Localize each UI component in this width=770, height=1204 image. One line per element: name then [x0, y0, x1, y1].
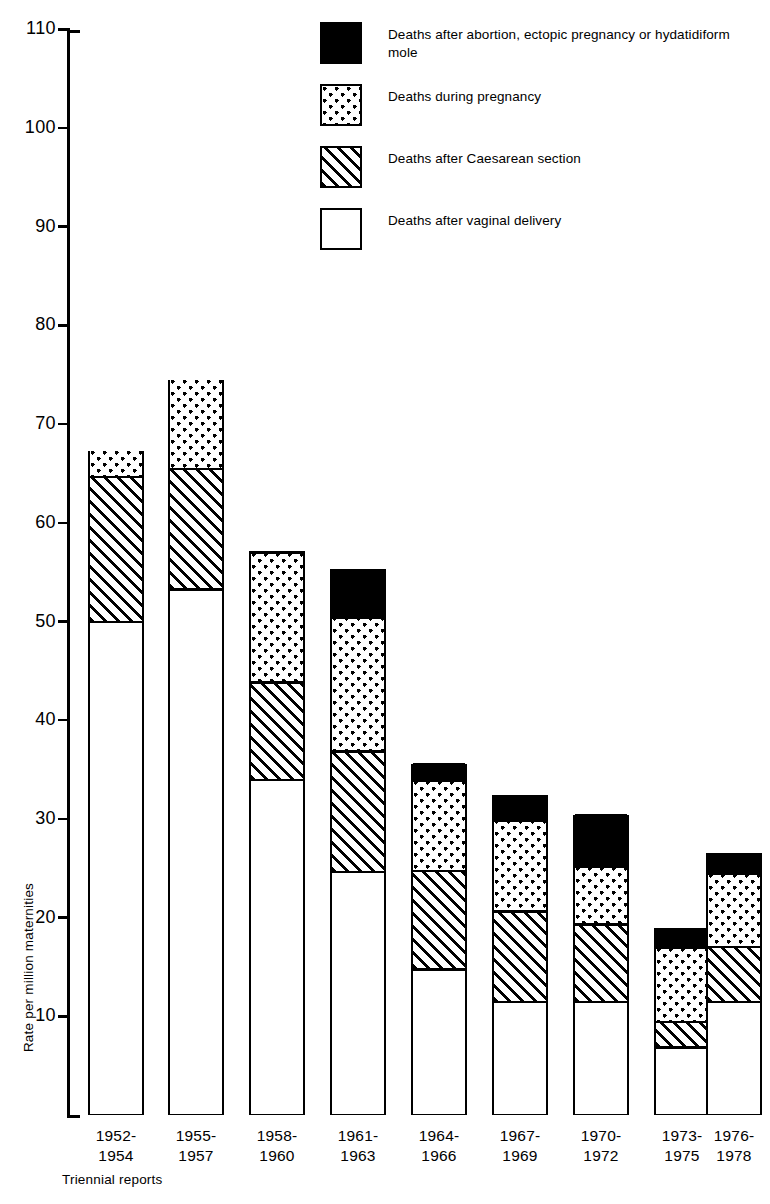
bar-segment-white: [413, 968, 465, 1114]
y-tick-30: [58, 818, 70, 821]
x-tick-label-1970-1972: 1970-1972: [562, 1126, 640, 1166]
bar-segment-hatch: [656, 1021, 708, 1047]
x-tick-label-1961-1963: 1961-1963: [319, 1126, 397, 1166]
bar-segment-divider: [708, 1001, 760, 1004]
bar-segment-dots: [708, 873, 760, 946]
bar-1976-1978[interactable]: [706, 853, 762, 1115]
bar-segment-hatch: [413, 870, 465, 969]
bar-segment-divider: [656, 1046, 708, 1049]
bar-segment-divider: [494, 1001, 546, 1004]
y-tick-label-60: 60: [10, 512, 56, 533]
bar-segment-divider: [656, 1021, 708, 1024]
x-tick-label-1967-1969: 1967-1969: [481, 1126, 559, 1166]
x-tick-label-1964-1966: 1964-1966: [400, 1126, 478, 1166]
y-tick-40: [58, 719, 70, 722]
x-tick-label-line-2: 1969: [481, 1146, 559, 1166]
bar-segment-divider: [170, 468, 222, 471]
y-tick-80: [58, 324, 70, 327]
bar-segment-divider: [251, 779, 303, 782]
bar-segment-white: [656, 1046, 708, 1114]
bar-segment-white: [251, 779, 303, 1115]
bar-segment-divider: [656, 947, 708, 950]
x-tick-label-line-2: 1957: [157, 1146, 235, 1166]
bar-segment-hatch: [708, 946, 760, 1001]
bar-segment-white: [494, 1001, 546, 1115]
bar-segment-divider: [575, 866, 627, 869]
bar-segment-divider: [708, 873, 760, 876]
bar-segment-dots: [413, 780, 465, 870]
y-tick-label-110: 110: [10, 18, 56, 39]
bar-segment-divider: [90, 621, 142, 624]
y-tick-label-40: 40: [10, 709, 56, 730]
x-tick-label-line-2: 1954: [77, 1146, 155, 1166]
y-tick-10: [58, 1015, 70, 1018]
x-tick-label-1976-1978: 1976-1978: [695, 1126, 770, 1166]
bar-1964-1966[interactable]: [411, 764, 467, 1115]
bar-1961-1963[interactable]: [330, 569, 386, 1115]
x-tick-label-line-1: 1976-: [695, 1126, 770, 1146]
y-tick-label-30: 30: [10, 808, 56, 829]
bar-segment-solid: [494, 795, 546, 820]
x-axis-title: Triennial reports: [62, 1172, 162, 1187]
bar-segment-divider: [413, 968, 465, 971]
bar-segment-solid: [708, 853, 760, 873]
y-tick-label-100: 100: [10, 117, 56, 138]
bar-segment-divider: [332, 616, 384, 619]
y-tick-90: [58, 225, 70, 228]
x-tick-label-line-2: 1972: [562, 1146, 640, 1166]
bar-segment-divider: [708, 946, 760, 949]
bar-segment-divider: [575, 923, 627, 926]
bar-1973-1975[interactable]: [654, 928, 710, 1115]
bar-segment-hatch: [170, 468, 222, 588]
bar-1958-1960[interactable]: [249, 551, 305, 1115]
bar-1955-1957[interactable]: [168, 380, 224, 1115]
y-tick-label-50: 50: [10, 611, 56, 632]
bar-segment-divider: [251, 681, 303, 684]
x-tick-label-line-2: 1960: [238, 1146, 316, 1166]
bar-segment-dots: [332, 616, 384, 750]
bar-segment-white: [170, 588, 222, 1114]
plot-area: 110100908070605040302010 Rate per millio…: [0, 0, 770, 1204]
bar-segment-divider: [494, 819, 546, 822]
bar-segment-hatch: [90, 476, 142, 621]
bar-segment-dots: [494, 819, 546, 910]
bar-1967-1969[interactable]: [492, 795, 548, 1115]
y-tick-110: [58, 28, 70, 31]
bar-segment-dots: [170, 379, 222, 468]
bar-segment-divider: [332, 750, 384, 753]
y-tick-20: [58, 916, 70, 919]
bar-1970-1972[interactable]: [573, 815, 629, 1115]
x-tick-label-line-2: 1963: [319, 1146, 397, 1166]
x-tick-label-1955-1957: 1955-1957: [157, 1126, 235, 1166]
bar-segment-divider: [413, 870, 465, 873]
bar-segment-solid: [332, 569, 384, 616]
x-tick-label-line-2: 1978: [695, 1146, 770, 1166]
bar-segment-white: [332, 871, 384, 1115]
y-tick-100: [58, 127, 70, 130]
y-tick-70: [58, 423, 70, 426]
bar-segment-divider: [575, 1001, 627, 1004]
y-axis-line: [67, 30, 70, 1118]
bar-segment-hatch: [575, 923, 627, 1001]
bar-segment-divider: [170, 588, 222, 591]
x-tick-label-line-1: 1961-: [319, 1126, 397, 1146]
y-tick-label-80: 80: [10, 314, 56, 335]
bar-segment-white: [575, 1001, 627, 1115]
x-tick-label-line-1: 1955-: [157, 1126, 235, 1146]
bar-segment-hatch: [494, 910, 546, 1001]
x-tick-label-line-1: 1970-: [562, 1126, 640, 1146]
bar-segment-white: [90, 621, 142, 1115]
bar-segment-divider: [251, 552, 303, 555]
bar-segment-divider: [413, 780, 465, 783]
bar-segment-solid: [575, 814, 627, 865]
bar-segment-divider: [494, 910, 546, 913]
bar-segment-white: [708, 1001, 760, 1115]
y-axis-title: Rate per million maternities: [21, 868, 36, 1068]
bar-segment-solid: [656, 928, 708, 947]
bar-segment-dots: [90, 450, 142, 476]
x-tick-label-line-1: 1964-: [400, 1126, 478, 1146]
bar-segment-divider: [90, 476, 142, 479]
chart-figure: Deaths after abortion, ectopic pregnancy…: [0, 0, 770, 1204]
bar-1952-1954[interactable]: [88, 451, 144, 1115]
bar-segment-dots: [575, 866, 627, 923]
